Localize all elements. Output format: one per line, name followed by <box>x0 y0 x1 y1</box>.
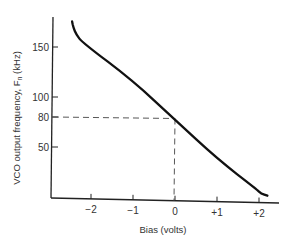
vco-curve <box>72 22 267 196</box>
x-tick-label: 0 <box>172 206 178 217</box>
x-axis <box>51 198 279 203</box>
x-axis-label: Bias (volts) <box>140 224 187 235</box>
y-tick-label: 80 <box>38 112 50 123</box>
vco-chart: 5080100150 −2−10+1+2 Bias (volts) VCO ou… <box>0 0 294 244</box>
y-tick-label: 100 <box>32 92 49 103</box>
x-tick-label: −2 <box>85 204 97 215</box>
dashed-guides <box>53 117 175 201</box>
x-tick-label: +2 <box>253 208 265 219</box>
x-tick-label: −1 <box>127 205 139 216</box>
x-ticks: −2−10+1+2 <box>85 194 265 219</box>
horizontal-guide <box>53 117 175 119</box>
x-tick-label: +1 <box>211 207 223 218</box>
y-tick-label: 50 <box>38 142 50 153</box>
y-tick-label: 150 <box>32 42 49 53</box>
vertical-guide <box>174 119 175 201</box>
y-ticks: 5080100150 <box>32 42 58 153</box>
y-axis-label: VCO output frequency, Fn (kHz) <box>11 51 23 185</box>
y-axis <box>51 17 53 198</box>
